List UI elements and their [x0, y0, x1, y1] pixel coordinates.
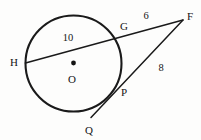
measure-label-pf: 8	[158, 63, 163, 74]
label-point-f: F	[187, 11, 193, 22]
label-point-h: H	[10, 57, 18, 68]
measure-label-gf: 6	[143, 11, 148, 22]
label-point-p: P	[121, 87, 127, 98]
label-point-q: Q	[85, 125, 93, 136]
geometry-canvas	[0, 0, 201, 140]
center-dot-o	[71, 61, 76, 66]
measure-label-hg: 10	[63, 33, 74, 44]
label-point-g: G	[120, 21, 128, 32]
secant-line-q-f	[91, 20, 183, 118]
geometry-figure: H G F P Q O 10 6 8	[0, 0, 201, 140]
label-center-o: O	[68, 74, 76, 85]
